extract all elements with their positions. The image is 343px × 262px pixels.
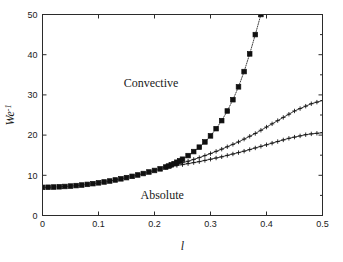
marker-branch-steep <box>186 153 191 158</box>
marker-branch-steep <box>119 177 124 182</box>
marker-branch-steep <box>113 178 118 183</box>
marker-branch-steep <box>130 174 135 179</box>
marker-branch-steep <box>124 175 129 180</box>
marker-branch-steep <box>51 185 56 190</box>
marker-branch-steep <box>141 171 146 176</box>
marker-branch-steep <box>147 170 152 175</box>
marker-branch-steep <box>57 185 62 190</box>
marker-branch-steep <box>68 184 73 189</box>
marker-branch-steep <box>107 179 112 184</box>
marker-branch-steep <box>247 52 252 57</box>
convective-region-label: Convective <box>124 76 179 90</box>
marker-branch-steep <box>231 97 236 102</box>
marker-branch-steep <box>158 167 163 172</box>
marker-branch-steep <box>191 149 196 154</box>
x-tick-label-1: 0.1 <box>92 219 105 229</box>
plot-background <box>43 15 323 216</box>
marker-branch-steep <box>135 173 140 178</box>
marker-branch-steep <box>91 181 96 186</box>
marker-branch-steep <box>102 180 107 185</box>
y-tick-label-2: 20 <box>27 130 37 140</box>
marker-branch-steep <box>152 168 157 173</box>
y-tick-label-4: 40 <box>27 50 37 60</box>
marker-branch-steep <box>253 32 258 37</box>
marker-branch-steep <box>236 85 241 90</box>
marker-branch-steep <box>46 185 51 190</box>
absolute-region-label: Absolute <box>141 188 184 202</box>
marker-branch-steep <box>219 118 224 123</box>
y-tick-label-1: 10 <box>27 171 37 181</box>
marker-branch-steep <box>242 69 247 74</box>
x-tick-label-3: 0.3 <box>204 219 217 229</box>
marker-branch-steep <box>203 140 208 145</box>
marker-branch-steep <box>208 134 213 139</box>
y-tick-label-3: 30 <box>27 90 37 100</box>
marker-branch-steep <box>225 109 230 114</box>
y-tick-label-5: 50 <box>27 10 37 20</box>
marker-branch-steep <box>63 184 68 189</box>
marker-branch-steep <box>74 183 79 188</box>
marker-branch-steep <box>96 181 101 186</box>
marker-branch-steep <box>85 182 90 187</box>
x-tick-label-4: 0.4 <box>260 219 273 229</box>
y-axis-title: We-1 <box>3 105 17 126</box>
marker-branch-steep <box>214 126 219 131</box>
x-tick-label-5: 0.5 <box>316 219 329 229</box>
stability-diagram-figure: 00.10.20.30.40.501020304050lWe-1Convecti… <box>0 0 343 262</box>
x-tick-label-0: 0 <box>40 219 45 229</box>
marker-branch-steep <box>79 183 84 188</box>
marker-branch-steep <box>197 145 202 150</box>
chart-canvas: 00.10.20.30.40.501020304050lWe-1Convecti… <box>0 0 343 262</box>
x-axis-title: l <box>181 239 185 253</box>
y-tick-label-0: 0 <box>32 211 37 221</box>
x-tick-label-2: 0.2 <box>148 219 161 229</box>
